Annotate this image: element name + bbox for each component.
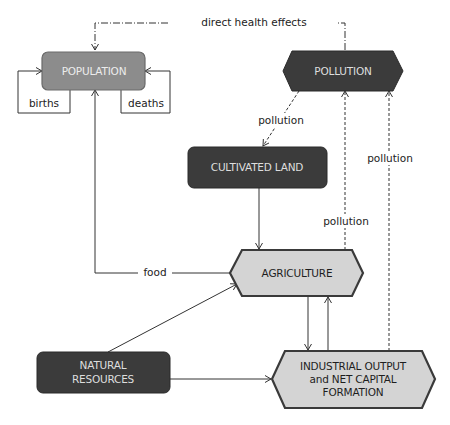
edge-resources-to-agriculture: [108, 284, 237, 352]
node-population: POPULATION: [42, 52, 145, 90]
direct-health-effects-label: direct health effects: [201, 16, 306, 28]
cultivated-land-label: CULTIVATED LAND: [211, 161, 304, 173]
food-label: food: [143, 266, 166, 278]
industrial-output-label-line3: FORMATION: [323, 386, 384, 398]
node-cultivated-land: CULTIVATED LAND: [188, 147, 327, 188]
node-industrial-output: INDUSTRIAL OUTPUT and NET CAPITAL FORMAT…: [272, 351, 435, 408]
edge-pollution-to-cultivated-land: pollution: [256, 91, 306, 146]
pollution-label-industry: pollution: [367, 152, 413, 164]
deaths-label: deaths: [128, 97, 164, 109]
edge-agriculture-pollution: pollution: [322, 91, 370, 250]
industrial-output-label-line2: and NET CAPITAL: [310, 373, 397, 385]
pollution-node-label: POLLUTION: [314, 65, 371, 77]
natural-resources-label-line1: NATURAL: [80, 359, 127, 371]
node-natural-resources: NATURAL RESOURCES: [37, 352, 170, 393]
edge-direct-health-effects: direct health effects: [95, 15, 345, 50]
agriculture-label: AGRICULTURE: [262, 267, 333, 279]
natural-resources-label-line2: RESOURCES: [72, 373, 135, 385]
node-pollution: POLLUTION: [283, 51, 403, 91]
node-agriculture: AGRICULTURE: [230, 250, 363, 296]
births-label: births: [29, 97, 59, 109]
pollution-label-land: pollution: [258, 114, 304, 126]
edge-industry-pollution: pollution: [366, 91, 414, 351]
world-model-diagram: direct health effects births deaths food…: [0, 0, 450, 425]
population-label: POPULATION: [62, 65, 127, 77]
industrial-output-label-line1: INDUSTRIAL OUTPUT: [300, 360, 407, 372]
pollution-label-agriculture: pollution: [323, 215, 369, 227]
